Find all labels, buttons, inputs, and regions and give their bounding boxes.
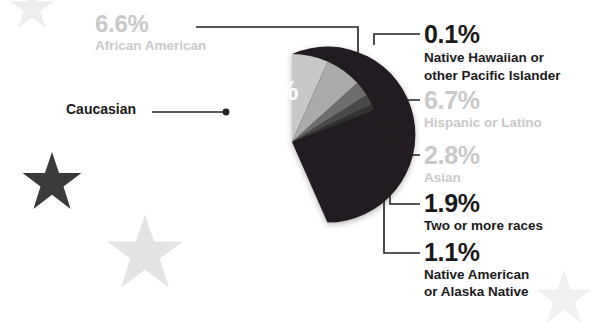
label-hispanic-pct: 6.7% [424,88,542,113]
label-caucasian-name: Caucasian [66,102,136,118]
label-asian-pct: 2.8% [424,143,480,168]
label-two-or-more: 1.9% Two or more races [424,191,543,233]
leader-native-hawaiian [374,34,420,45]
label-native-american: 1.1% Native American or Alaska Native [424,240,529,299]
label-caucasian: Caucasian [66,102,136,118]
pie-slices [292,47,415,223]
label-hispanic-name: Hispanic or Latino [424,115,542,130]
label-african-american: 6.6% African American [95,12,206,53]
dot-asian [377,120,384,127]
dot-native-american [378,150,385,157]
label-hispanic: 6.7% Hispanic or Latino [424,88,542,130]
label-native-american-name-line2: or Alaska Native [424,284,529,299]
label-two-or-more-name: Two or more races [424,218,543,233]
label-asian: 2.8% Asian [424,143,480,185]
dot-native-hawaiian [371,87,378,94]
label-native-american-name-line1: Native American [424,267,529,282]
label-native-hawaiian: 0.1% Native Hawaiian or other Pacific Is… [424,22,561,83]
label-two-or-more-pct: 1.9% [424,191,543,216]
dot-hispanic [375,97,382,104]
label-african-american-pct: 6.6% [95,12,206,36]
dot-caucasian [223,109,230,116]
pie-center-value: 81.7% [224,76,298,107]
label-asian-name: Asian [424,170,480,185]
label-native-hawaiian-name-line2: other Pacific Islander [424,68,561,83]
label-native-hawaiian-name-line1: Native Hawaiian or [424,50,561,65]
label-african-american-name: African American [95,38,206,53]
label-native-american-pct: 1.1% [424,240,529,265]
label-native-hawaiian-pct: 0.1% [424,22,561,47]
dot-african-american [355,69,362,76]
dot-two-or-more [379,137,386,144]
